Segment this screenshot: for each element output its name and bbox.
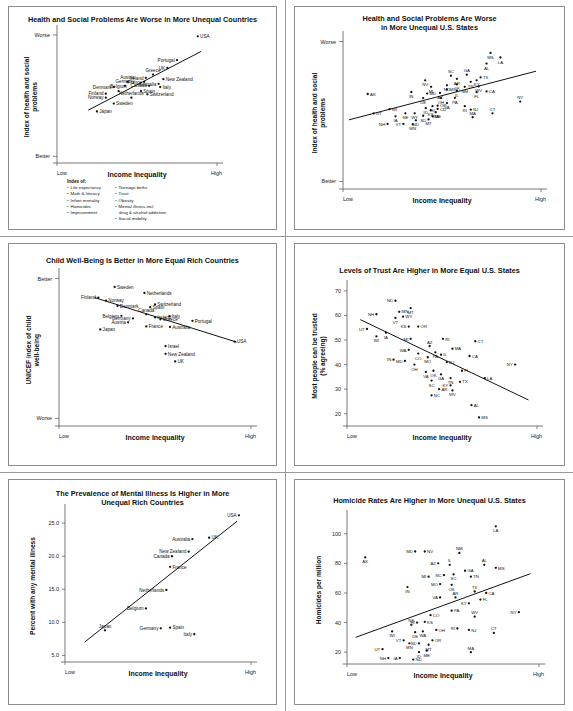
legend-heading: Index of: xyxy=(67,179,86,184)
data-point xyxy=(169,626,171,628)
data-point-label: Canada xyxy=(154,554,171,559)
y-tick-label: 5.0 xyxy=(52,652,60,658)
data-point xyxy=(442,338,444,340)
data-point xyxy=(412,123,414,125)
data-point xyxy=(145,325,147,327)
data-point-label: NY xyxy=(511,610,517,615)
data-point-label: USA xyxy=(237,339,247,344)
data-point xyxy=(422,115,424,117)
data-point-label: Netherlands xyxy=(139,588,164,593)
x-axis-title: Income Inequality xyxy=(412,434,471,442)
data-point-label: PA xyxy=(433,354,439,359)
data-point xyxy=(408,349,410,351)
data-point-label: NJ xyxy=(471,628,476,633)
data-point xyxy=(435,111,437,113)
data-point xyxy=(450,75,452,77)
chart-canvas-states-health: WorseBetterLowHighIncome InequalityIndex… xyxy=(295,7,566,232)
x-tick-label-low: Low xyxy=(57,170,67,176)
data-point xyxy=(146,93,148,95)
data-point-label: Germany xyxy=(140,626,160,631)
data-point xyxy=(174,360,176,362)
y-axis-title: (% agreeing) xyxy=(319,336,327,376)
data-point-label: SC xyxy=(451,576,457,581)
data-point xyxy=(425,107,427,109)
data-point-label: ND xyxy=(416,657,422,662)
data-point xyxy=(446,88,448,90)
x-axis-title: Income Inequality xyxy=(128,670,187,678)
data-point xyxy=(105,299,107,301)
data-point xyxy=(438,388,440,390)
y-tick-label: 60 xyxy=(335,590,341,596)
panel-states-health: Health and Social Problems Are Worse in … xyxy=(286,0,573,237)
data-point-label: NV xyxy=(427,549,433,554)
y-axis-title: Homicides per million xyxy=(315,556,323,625)
y-tick-label: 40 xyxy=(335,620,341,626)
data-point-label: CO xyxy=(415,356,422,361)
data-point xyxy=(404,360,406,362)
data-point-label: CO xyxy=(433,613,440,618)
data-point xyxy=(432,370,434,372)
data-point xyxy=(474,615,476,617)
data-point-label: NE xyxy=(408,618,414,623)
data-point-label: WY xyxy=(405,314,412,319)
data-point-label: SC xyxy=(429,383,435,388)
x-tick-label-high: High xyxy=(211,170,222,176)
data-point xyxy=(443,574,445,576)
data-point-label: RI xyxy=(463,108,467,113)
data-point-label: Japan xyxy=(99,109,112,114)
data-point-label: IN xyxy=(387,357,391,362)
data-point xyxy=(440,373,442,375)
data-point-label: Finland xyxy=(81,295,97,300)
data-point-label: VA xyxy=(423,374,429,379)
data-point xyxy=(468,629,470,631)
data-point-label: Portugal xyxy=(158,58,175,63)
data-point xyxy=(426,92,428,94)
data-point-label: Greece xyxy=(163,317,179,322)
data-point xyxy=(413,363,415,365)
data-point-label: MD xyxy=(429,91,436,96)
data-point-label: CD xyxy=(440,107,446,112)
data-point-label: KS xyxy=(401,324,407,329)
data-point xyxy=(495,567,497,569)
data-point-label: WY xyxy=(411,115,418,120)
data-point-label: KS xyxy=(427,620,433,625)
panel-child-wellbeing: Child Well-Being Is Better in More Equal… xyxy=(0,237,286,473)
y-tick-label: Worse xyxy=(321,39,336,45)
data-point xyxy=(105,97,107,99)
data-point xyxy=(410,307,412,309)
data-point-label: PA xyxy=(454,608,460,613)
data-point xyxy=(449,564,451,566)
x-tick-label-high: High xyxy=(245,433,256,439)
y-axis-title: Percent with any mental illness xyxy=(29,537,37,635)
data-point-label: Australia xyxy=(172,325,190,330)
data-point-label: VT xyxy=(396,638,402,643)
panel-mental-illness: The Prevalence of Mental Illness Is High… xyxy=(0,473,286,711)
data-point xyxy=(450,610,452,612)
data-point-label: NY xyxy=(507,362,513,367)
data-point xyxy=(450,584,452,586)
data-point-label: WI xyxy=(389,633,394,638)
data-point xyxy=(160,627,162,629)
data-point-label: UK xyxy=(211,535,218,540)
data-point-label: NV xyxy=(422,82,428,87)
data-point xyxy=(439,92,441,94)
data-point xyxy=(234,340,236,342)
data-point xyxy=(483,564,485,566)
data-point xyxy=(410,91,412,93)
data-point-label: OR xyxy=(421,324,427,329)
data-point xyxy=(394,317,396,319)
data-point-label: MA xyxy=(455,346,462,351)
data-point xyxy=(418,651,420,653)
data-point xyxy=(456,83,458,85)
x-tick-label-low: Low xyxy=(347,671,357,677)
data-point-label: FL xyxy=(474,94,480,99)
data-point xyxy=(495,525,497,527)
data-point xyxy=(414,631,416,633)
data-point-label: AR xyxy=(452,591,458,596)
data-point xyxy=(499,56,501,58)
data-point xyxy=(440,97,442,99)
data-point xyxy=(518,611,520,613)
y-tick-label: 25.0 xyxy=(49,520,60,526)
data-point xyxy=(425,371,427,373)
chart-canvas-child-wellbeing: BetterWorseLowHighIncome InequalityUNICE… xyxy=(9,244,279,468)
